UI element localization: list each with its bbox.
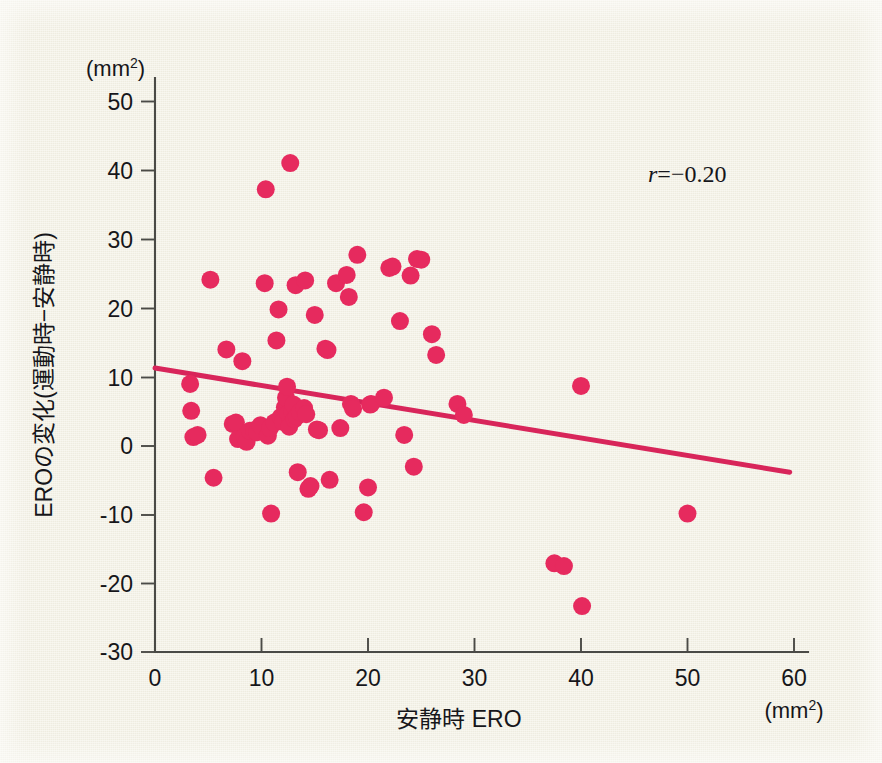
x-unit-base: (mm (764, 698, 808, 723)
data-point (297, 405, 315, 423)
data-point (375, 389, 393, 407)
x-axis-title: 安静時 ERO (396, 706, 521, 732)
scatter-plot: 50 40 30 20 10 0 -10 -20 -30 (mm2) 0 10 (0, 0, 882, 763)
data-point (256, 274, 274, 292)
data-point (395, 426, 413, 444)
data-point (270, 300, 288, 318)
data-point (278, 378, 296, 396)
data-point (348, 246, 366, 264)
data-point (423, 325, 441, 343)
x-unit-exponent: 2 (808, 697, 816, 713)
data-point (321, 471, 339, 489)
x-axis-unit-label: (mm2) (764, 697, 823, 723)
x-tick-label-60: 60 (781, 665, 807, 691)
figure-canvas: 50 40 30 20 10 0 -10 -20 -30 (mm2) 0 10 (0, 0, 882, 763)
data-point (262, 505, 280, 523)
y-axis-title: EROの変化(運動時−安静時) (31, 232, 57, 518)
x-axis-ticks (155, 638, 794, 652)
correlation-annotation: r=−0.20 (648, 161, 726, 187)
data-point (310, 421, 328, 439)
data-point (455, 406, 473, 424)
data-point (281, 154, 299, 172)
y-axis-ticks (141, 102, 155, 653)
correlation-value: =−0.20 (657, 161, 726, 187)
data-point (402, 267, 420, 285)
data-point (182, 402, 200, 420)
y-tick-label-50: 50 (107, 89, 133, 115)
data-point (384, 258, 402, 276)
data-point (427, 346, 445, 364)
data-point (573, 597, 591, 615)
data-point (289, 463, 307, 481)
y-tick-label-minus30: -30 (100, 639, 133, 665)
data-point (340, 288, 358, 306)
data-point (201, 271, 219, 289)
y-tick-label-10: 10 (107, 365, 133, 391)
x-tick-label-20: 20 (355, 665, 381, 691)
data-point (572, 377, 590, 395)
data-point (306, 306, 324, 324)
data-point (205, 469, 223, 487)
data-point (412, 251, 430, 269)
data-point (301, 477, 319, 495)
x-tick-label-30: 30 (462, 665, 488, 691)
x-tick-label-10: 10 (249, 665, 275, 691)
x-tick-label-50: 50 (675, 665, 701, 691)
y-unit-base: (mm (86, 56, 130, 81)
regression-trendline (155, 368, 790, 472)
y-tick-label-0: 0 (120, 433, 133, 459)
x-tick-label-40: 40 (568, 665, 594, 691)
y-tick-label-30: 30 (107, 227, 133, 253)
y-axis-tick-labels: 50 40 30 20 10 0 -10 -20 -30 (100, 89, 133, 665)
data-point (355, 503, 373, 521)
y-tick-label-minus20: -20 (100, 571, 133, 597)
x-tick-label-0: 0 (149, 665, 162, 691)
data-point (679, 505, 697, 523)
data-point (181, 375, 199, 393)
data-point (217, 340, 235, 358)
y-axis-unit-label: (mm2) (86, 55, 145, 81)
data-point (267, 331, 285, 349)
data-point (296, 271, 314, 289)
y-tick-label-20: 20 (107, 296, 133, 322)
data-point (189, 426, 207, 444)
data-point (331, 419, 349, 437)
data-point (344, 400, 362, 418)
y-unit-close: ) (138, 56, 145, 81)
data-point (359, 478, 377, 496)
data-point (233, 352, 251, 370)
data-point (405, 458, 423, 476)
data-point (319, 341, 337, 359)
data-point (257, 180, 275, 198)
y-tick-label-40: 40 (107, 158, 133, 184)
data-point (391, 312, 409, 330)
y-tick-label-minus10: -10 (100, 502, 133, 528)
x-unit-close: ) (816, 698, 823, 723)
y-unit-exponent: 2 (130, 55, 138, 71)
data-point (555, 557, 573, 575)
data-point (338, 266, 356, 284)
x-axis-tick-labels: 0 10 20 30 40 50 60 (149, 665, 807, 691)
